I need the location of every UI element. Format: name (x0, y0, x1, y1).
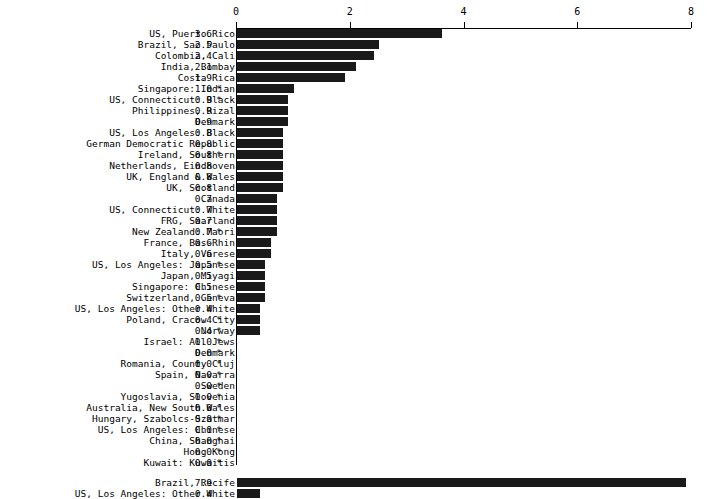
bar-row: Canada0.7 (0, 193, 713, 204)
bar-row: Brazil, Sao Paulo2.5 (0, 39, 713, 50)
bar-row-value: 0.7 (186, 215, 212, 226)
bar-row: Philippines, Rizal0.9 (0, 105, 713, 116)
bar (237, 271, 265, 280)
bar-row-value: 0.4 (186, 303, 212, 314)
bar (237, 128, 283, 137)
bar-row-flag: * (216, 325, 222, 336)
bar-rows: US, Puerto Rico3.6Brazil, Sao Paulo2.5Co… (0, 28, 713, 499)
bar-row-value: 2.5 (186, 39, 212, 50)
bar-row: UK, England & Wales0.8 (0, 171, 713, 182)
bar-row-flag: * (216, 446, 222, 457)
bar (237, 260, 265, 269)
bar-row: Japan, Miyagi0.5 (0, 270, 713, 281)
bar (237, 238, 271, 247)
bar-row-flag: * (216, 149, 222, 160)
bar-row: Australia, New South Wales0.0* (0, 402, 713, 413)
bar-row-value: 0.0 (186, 435, 212, 446)
bar-row: India, Bombay2.1 (0, 61, 713, 72)
bar-row-flag: * (216, 292, 222, 303)
bar-row-flag: * (216, 259, 222, 270)
bar-row-value: 0.8 (186, 171, 212, 182)
bar-row-flag: * (216, 435, 222, 446)
bar-row: US, Los Angeles: Black0.8 (0, 127, 713, 138)
bar-row: US, Los Angeles: Chinese0.0* (0, 424, 713, 435)
bar-row: US, Connecticut: Black0.9* (0, 94, 713, 105)
bar-row-value: 1.9 (186, 72, 212, 83)
bar-row: UK, Scotland0.8 (0, 182, 713, 193)
bar-row-value: 0.0 (186, 380, 212, 391)
bar-row: US, Los Angeles: Other White0.4 (0, 303, 713, 314)
bar-row-value: 3.6 (186, 28, 212, 39)
bar-row-flag: * (216, 424, 222, 435)
bar-row-label: German Democratic Republic (86, 138, 235, 149)
x-tick-label: 6 (567, 6, 587, 17)
bar-row: Hong Kong0.0* (0, 446, 713, 457)
bar-row-label: US, Los Angeles: Chinese (98, 424, 235, 435)
bar-row-label: Australia, New South Wales (86, 402, 235, 413)
bar (237, 194, 277, 203)
bar-row: Netherlands, Eindhoven0.8 (0, 160, 713, 171)
bar-row-flag: * (216, 391, 222, 402)
bar-row-label: Singapore: Chinese (132, 281, 235, 292)
bar-row-value: 0.9 (186, 116, 212, 127)
bar (237, 84, 294, 93)
bar-row-label: Philippines, Rizal (132, 105, 235, 116)
bar-row: Denmark0.0* (0, 347, 713, 358)
bar-row-value: 0.0 (186, 336, 212, 347)
bar-row-value: 0.4 (186, 325, 212, 336)
bar-row-value: 0.0 (186, 413, 212, 424)
bar-row: Kuwait: Kuwaitis0.0* (0, 457, 713, 468)
bar-row: Ireland, Southern0.8* (0, 149, 713, 160)
bar-row: Switzerland, Geneva0.5* (0, 292, 713, 303)
bar-row: China, Shanghai0.0* (0, 435, 713, 446)
bar-row-value: 0.7 (186, 204, 212, 215)
bar-row: Israel: All Jews0.0* (0, 336, 713, 347)
bar (237, 73, 345, 82)
bar (237, 205, 277, 214)
bar-row: Yugoslavia, Slovenia0.0* (0, 391, 713, 402)
bar-row-value: 0.0 (186, 369, 212, 380)
bar-row: Italy, Varese0.6 (0, 248, 713, 259)
bar (237, 304, 260, 313)
bar-row-flag: * (216, 358, 222, 369)
bar-row: FRG, Saarland0.7 (0, 215, 713, 226)
bar-row-flag: * (216, 347, 222, 358)
bar-row-value: 0.0 (186, 402, 212, 413)
bar (237, 282, 265, 291)
bar-row: Singapore: Indian1.0* (0, 83, 713, 94)
bar (237, 51, 374, 60)
bar-row-flag: * (216, 336, 222, 347)
bar-row-label: US, Connecticut: White (109, 204, 235, 215)
bar-row-value: 0.5 (186, 270, 212, 281)
bar-row-label: Hungary, Szabolcs-Szatmar (92, 413, 235, 424)
bar (237, 249, 271, 258)
bar-row-flag: * (216, 457, 222, 468)
bar-row-label: US, Los Angeles: Black (109, 127, 235, 138)
bar (237, 315, 260, 324)
bar-row-value: 0.8 (186, 127, 212, 138)
bar-row: Poland, Cracow City0.4* (0, 314, 713, 325)
bar-row-label: Netherlands, Eindhoven (109, 160, 235, 171)
bar-row-flag: * (216, 402, 222, 413)
bar (237, 172, 283, 181)
bar-row: Denmark0.9 (0, 116, 713, 127)
bar (237, 150, 283, 159)
bar-row-value: 0.8 (186, 149, 212, 160)
bar-row-value: 0.7 (186, 226, 212, 237)
bar (237, 489, 260, 498)
bar-row-value: 0.0 (186, 424, 212, 435)
bar-row: German Democratic Republic0.8 (0, 138, 713, 149)
bar-row-value: 0.7 (186, 193, 212, 204)
bar (237, 183, 283, 192)
bar-row-value: 0.0 (186, 457, 212, 468)
bar-row-value: 0.4 (186, 488, 212, 499)
bar (237, 40, 379, 49)
bar-row-value: 0.0 (186, 391, 212, 402)
bar-row-value: 0.8 (186, 182, 212, 193)
x-tick-label: 4 (454, 6, 474, 17)
bar-row: Spain, Navarra0.0* (0, 369, 713, 380)
bar-row-value: 2.4 (186, 50, 212, 61)
bar (237, 227, 277, 236)
bar-row: US, Puerto Rico3.6 (0, 28, 713, 39)
